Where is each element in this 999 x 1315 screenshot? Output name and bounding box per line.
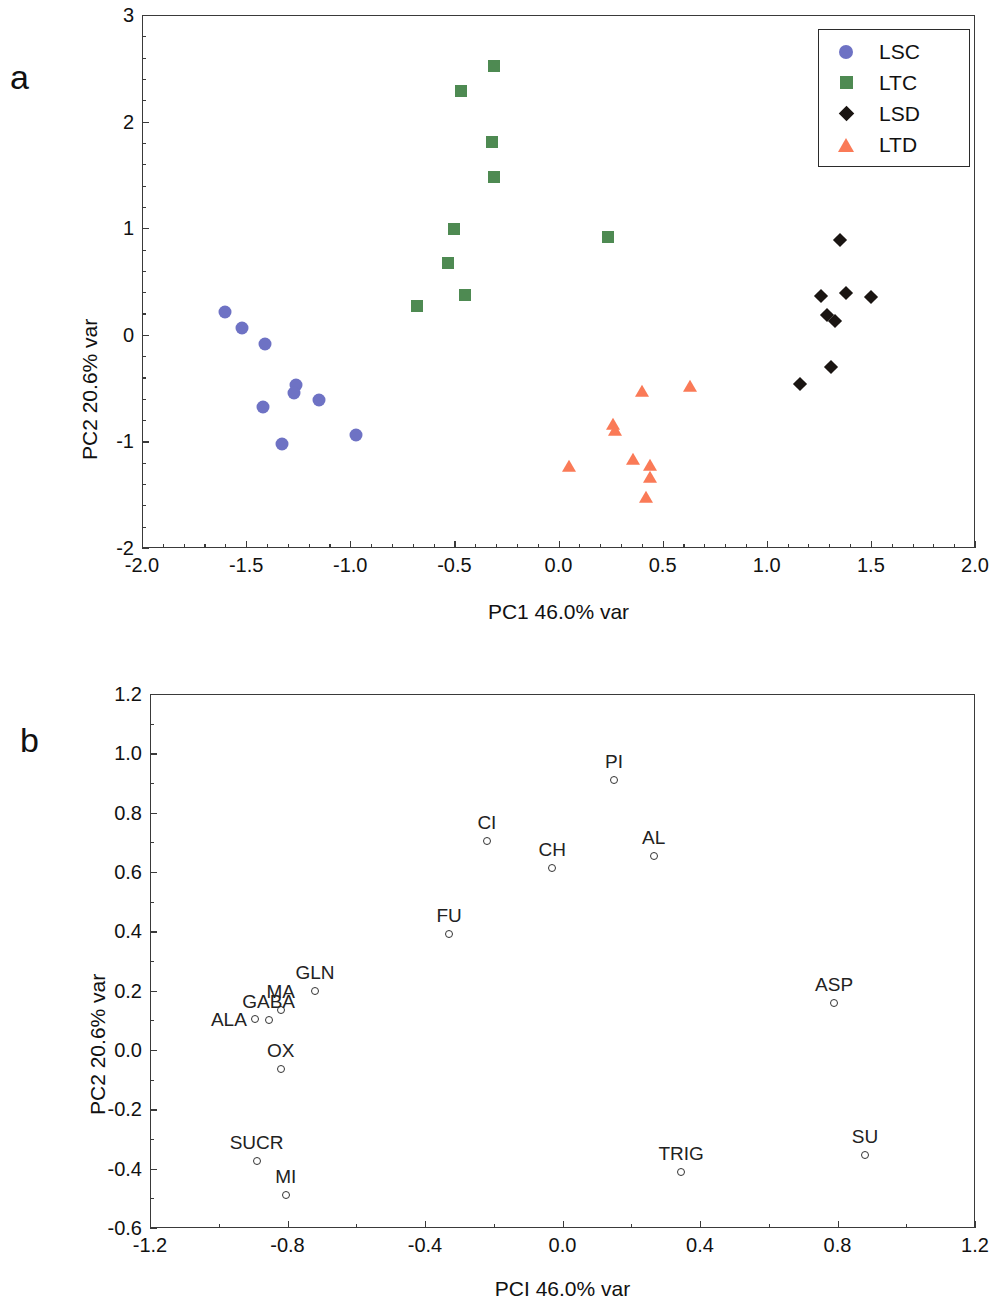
- loading-label-sucr: SUCR: [230, 1133, 284, 1152]
- y-tick-mark: [150, 694, 157, 695]
- y-minor-tick: [142, 420, 146, 421]
- legend-label: LSC: [879, 40, 920, 64]
- y-tick-mark: [150, 753, 157, 754]
- x-tick-mark: [663, 541, 664, 548]
- y-minor-tick: [142, 484, 146, 485]
- x-minor-tick: [329, 544, 330, 548]
- y-minor-tick: [142, 186, 146, 187]
- loading-point-gln: [311, 987, 319, 995]
- y-minor-tick: [150, 1080, 154, 1081]
- x-minor-tick: [288, 544, 289, 548]
- legend-marker-square-icon: [829, 76, 863, 89]
- x-tick-label: 0.0: [549, 1234, 577, 1257]
- loading-point-asp: [830, 999, 838, 1007]
- y-tick-label: 0.4: [84, 920, 142, 943]
- loading-label-pi: PI: [605, 752, 623, 771]
- data-point-ltd: [608, 424, 622, 436]
- legend-item-ltc[interactable]: LTC: [829, 67, 957, 98]
- x-minor-tick: [475, 544, 476, 548]
- panel-a-x-axis-title: PC1 46.0% var: [142, 600, 975, 624]
- data-point-ltd: [639, 491, 653, 503]
- y-minor-tick: [150, 902, 154, 903]
- y-tick-mark: [150, 931, 157, 932]
- x-tick-label: -1.0: [333, 554, 367, 577]
- y-tick-mark: [150, 991, 157, 992]
- x-minor-tick: [184, 544, 185, 548]
- loading-point-ci: [483, 837, 491, 845]
- x-minor-tick: [579, 544, 580, 548]
- panel-b-letter: b: [20, 723, 39, 757]
- x-minor-tick: [850, 544, 851, 548]
- y-tick-mark: [150, 1050, 157, 1051]
- panel-a-legend: LSCLTCLSDLTD: [818, 29, 970, 167]
- data-point-ltc: [602, 231, 614, 243]
- x-tick-mark: [838, 1221, 839, 1228]
- y-minor-tick: [142, 292, 146, 293]
- y-minor-tick: [150, 842, 154, 843]
- x-tick-mark: [246, 541, 247, 548]
- legend-label: LSD: [879, 102, 920, 126]
- y-minor-tick: [142, 250, 146, 251]
- x-minor-tick: [788, 544, 789, 548]
- y-tick-mark: [150, 1109, 157, 1110]
- loading-point-fu: [445, 930, 453, 938]
- y-tick-mark: [142, 441, 149, 442]
- x-tick-mark: [425, 1221, 426, 1228]
- data-point-lsc: [235, 322, 248, 335]
- y-tick-mark: [142, 335, 149, 336]
- x-minor-tick: [621, 544, 622, 548]
- x-minor-tick: [204, 544, 205, 548]
- x-minor-tick: [413, 544, 414, 548]
- panel-b-y-axis-title: PC2 20.6% var: [86, 974, 110, 1115]
- data-point-lsc: [288, 387, 301, 400]
- x-tick-mark: [871, 541, 872, 548]
- x-minor-tick: [642, 544, 643, 548]
- legend-item-lsd[interactable]: LSD: [829, 98, 957, 129]
- loading-label-al: AL: [642, 828, 665, 847]
- x-minor-tick: [538, 544, 539, 548]
- panel-a-y-axis-title: PC2 20.6% var: [78, 319, 102, 460]
- x-minor-tick: [494, 1224, 495, 1228]
- data-point-ltc: [488, 60, 500, 72]
- y-minor-tick: [142, 527, 146, 528]
- y-minor-tick: [142, 356, 146, 357]
- legend-marker-circle-icon: [829, 45, 863, 59]
- x-minor-tick: [631, 1224, 632, 1228]
- x-minor-tick: [808, 544, 809, 548]
- legend-item-lsc[interactable]: LSC: [829, 36, 957, 67]
- y-minor-tick: [142, 36, 146, 37]
- y-tick-label: 0.6: [84, 861, 142, 884]
- y-minor-tick: [150, 1139, 154, 1140]
- x-tick-mark: [350, 541, 351, 548]
- y-minor-tick: [142, 58, 146, 59]
- y-tick-mark: [142, 548, 149, 549]
- loading-point-ch: [548, 864, 556, 872]
- loading-label-gln: GLN: [295, 963, 334, 982]
- y-tick-label: 2: [76, 110, 134, 133]
- x-tick-mark: [700, 1221, 701, 1228]
- data-point-ltd: [643, 459, 657, 471]
- y-tick-mark: [142, 122, 149, 123]
- x-minor-tick: [309, 544, 310, 548]
- x-tick-label: 0.8: [824, 1234, 852, 1257]
- x-minor-tick: [704, 544, 705, 548]
- data-point-lsc: [275, 437, 288, 450]
- x-tick-mark: [975, 1221, 976, 1228]
- data-point-ltc: [411, 300, 423, 312]
- loading-point-ox: [277, 1065, 285, 1073]
- panel-a-letter: a: [10, 60, 29, 94]
- legend-label: LTC: [879, 71, 917, 95]
- y-tick-mark: [150, 1228, 157, 1229]
- x-tick-label: 0.5: [649, 554, 677, 577]
- x-tick-mark: [150, 1221, 151, 1228]
- loading-point-pi: [610, 776, 618, 784]
- x-tick-mark: [454, 541, 455, 548]
- y-tick-mark: [142, 15, 149, 16]
- x-minor-tick: [906, 1224, 907, 1228]
- legend-item-ltd[interactable]: LTD: [829, 129, 957, 160]
- y-minor-tick: [142, 271, 146, 272]
- data-point-ltc: [486, 136, 498, 148]
- x-tick-mark: [975, 541, 976, 548]
- x-minor-tick: [392, 544, 393, 548]
- y-tick-label: -2: [76, 537, 134, 560]
